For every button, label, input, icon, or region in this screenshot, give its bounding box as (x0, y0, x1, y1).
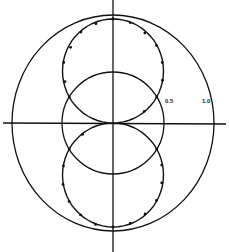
data-point (161, 61, 164, 64)
chart-canvas (0, 0, 229, 252)
label-0-5: 0.5 (165, 98, 173, 104)
label-1-0: 1.0 (202, 98, 210, 104)
data-point (68, 200, 71, 203)
data-point (112, 18, 115, 21)
data-point (62, 183, 65, 186)
data-point (94, 223, 97, 226)
data-point (112, 226, 115, 229)
data-point (80, 31, 83, 34)
data-point (161, 79, 164, 82)
data-point (155, 96, 158, 99)
data-point (64, 80, 67, 83)
data-point (81, 133, 84, 136)
data-point (144, 213, 147, 216)
data-point (143, 32, 146, 35)
data-point (79, 214, 82, 217)
polar-chart: 0.5 1.0 (0, 0, 229, 252)
data-point (143, 110, 146, 113)
data-point (69, 46, 72, 49)
data-point (160, 164, 163, 167)
data-point (129, 222, 132, 225)
data-point (62, 61, 65, 64)
data-point (68, 148, 71, 151)
data-point (62, 164, 65, 167)
data-point (155, 199, 158, 202)
data-point (155, 148, 158, 151)
data-point (68, 96, 71, 99)
data-point (129, 21, 132, 24)
data-point (155, 44, 158, 47)
data-point (95, 22, 98, 25)
data-point (160, 181, 163, 184)
